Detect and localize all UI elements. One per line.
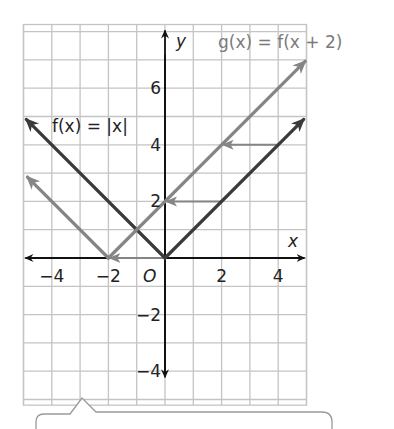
- axes: [26, 31, 305, 378]
- g-line-right-ray: [108, 61, 305, 258]
- x-tick-label: 4: [273, 266, 284, 286]
- graph-figure: −4−224642−2−4 f(x) = |x| g(x) = f(x + 2)…: [0, 0, 394, 429]
- y-axis-label: y: [175, 31, 187, 51]
- callout-box: [36, 398, 332, 429]
- x-axis-label: x: [287, 231, 299, 251]
- origin-label: O: [143, 266, 156, 286]
- x-tick-label: −4: [39, 266, 64, 286]
- y-tick-label: 6: [150, 78, 161, 98]
- x-tick-label: −2: [96, 266, 121, 286]
- x-tick-label: 2: [216, 266, 227, 286]
- coordinate-plane: −4−224642−2−4 f(x) = |x| g(x) = f(x + 2)…: [0, 0, 394, 429]
- y-tick-label: 4: [150, 135, 161, 155]
- g-function-label: g(x) = f(x + 2): [218, 32, 342, 52]
- f-function-label: f(x) = |x|: [52, 116, 128, 136]
- y-tick-label: 2: [150, 191, 161, 211]
- f-line-right-ray: [165, 119, 304, 258]
- y-tick-label: −4: [136, 361, 161, 381]
- f-line-left-ray: [26, 119, 165, 258]
- y-tick-label: −2: [136, 305, 161, 325]
